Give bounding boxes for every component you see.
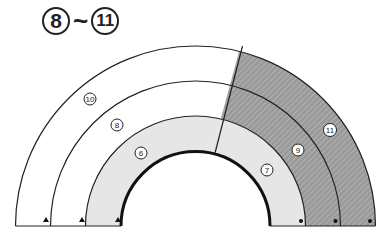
region-label-9: 9 <box>292 144 304 156</box>
svg-text:11: 11 <box>326 126 335 135</box>
svg-text:9: 9 <box>296 146 301 155</box>
region-label-8: 8 <box>111 119 123 131</box>
svg-text:10: 10 <box>86 95 95 104</box>
region-label-7: 7 <box>261 164 273 176</box>
region-label-6: 6 <box>135 147 147 159</box>
dot-icon <box>368 219 372 223</box>
triangle-icon <box>43 217 49 222</box>
svg-text:6: 6 <box>139 149 144 158</box>
region-label-11: 11 <box>324 124 337 137</box>
triangle-icon <box>79 217 85 222</box>
dot-icon <box>299 219 303 223</box>
rainbow-diagram: 10 8 6 7 9 11 <box>0 0 388 240</box>
region-label-10: 10 <box>84 93 96 105</box>
svg-text:8: 8 <box>115 121 120 130</box>
svg-text:7: 7 <box>265 166 270 175</box>
dot-icon <box>334 219 338 223</box>
